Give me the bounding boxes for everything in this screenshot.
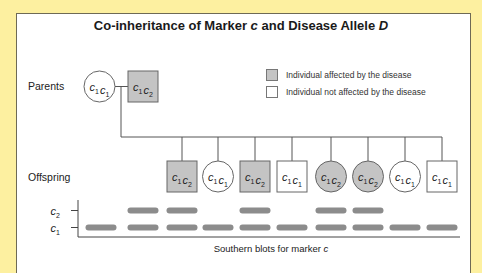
band-c1 <box>240 225 271 231</box>
band-c1 <box>86 225 117 231</box>
band-label: c2 <box>51 205 61 219</box>
band-c2 <box>316 208 347 214</box>
band-c1 <box>390 225 421 231</box>
band-c2 <box>167 208 198 214</box>
band-c1 <box>316 225 347 231</box>
band-c1 <box>277 225 308 231</box>
band-c1 <box>203 225 234 231</box>
blot-caption-marker: c <box>324 243 329 254</box>
band-c2 <box>353 208 384 214</box>
band-c1 <box>167 225 198 231</box>
band-c2 <box>240 208 271 214</box>
band-c1 <box>427 225 458 231</box>
band-label: c1 <box>51 222 61 236</box>
band-c1 <box>128 225 159 231</box>
blot-caption: Southern blots for marker c <box>0 243 482 254</box>
band-c2 <box>128 208 159 214</box>
band-c1 <box>353 225 384 231</box>
blot-caption-text: Southern blots for marker <box>214 243 324 254</box>
